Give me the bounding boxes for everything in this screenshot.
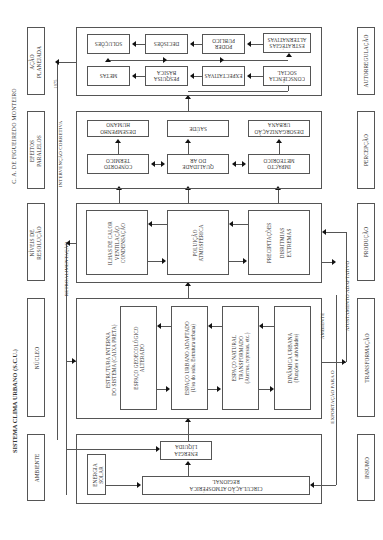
label-insumo: INSUMO xyxy=(357,434,375,501)
box-pesquisa-basica: PESQUISA BÁSICA xyxy=(145,66,188,86)
box-poder-publico: PODER PÚBLICO xyxy=(202,34,245,54)
year-label: 1975 xyxy=(52,69,60,99)
arrow-right-icon xyxy=(137,482,141,488)
box-saude: SAÚDE xyxy=(167,120,229,137)
label-nucleo: NÚCLEO xyxy=(27,298,45,417)
box-energia-solar: ENERGIA SOLAR xyxy=(87,454,106,495)
retroalimentacao-label: RETROALIMENTAÇÃO xyxy=(63,224,71,314)
box-ilhas-de-calor: ILHAS DE CALOR VENTILAÇÃO CONDENSAÇÃO xyxy=(86,210,148,275)
box-impacto-meteorico: IMPACTO METEÓRICO xyxy=(248,154,310,174)
label-efeitos-paralelos: EFEITOS PARALELOS xyxy=(27,111,45,189)
label-autorregulacao: AUTORREGULAÇÃO xyxy=(357,27,375,95)
label-producao: PRODUÇÃO xyxy=(357,203,375,281)
box-precipitacoes: PRECIPITAÇÕES DISRITMIAS EXTREMAS xyxy=(248,210,310,275)
box-energia-liquida: ENERGIA LÍQUIDA xyxy=(160,441,212,460)
box-estrategias-alternativas: ESTRATÉGIAS ALTERNATIVAS xyxy=(263,33,311,53)
box-consciencia-social: CONSCIÊNCIA SOCIAL xyxy=(263,66,311,86)
box-decisoes: DECISÕES xyxy=(145,34,188,54)
box-conforto-termico: CONFORTO TÉRMICO xyxy=(87,154,149,174)
label-acao-planejada: AÇÃO PLANEJADA xyxy=(27,27,45,95)
ambiente-label: AMBIENTE xyxy=(319,308,327,344)
box-espaco-geoecologico: ESPAÇO GEOECOLÓGICO ALTERADO xyxy=(120,306,157,410)
box-desempenho-humano: DESEMPENHO HUMANO xyxy=(87,120,149,137)
label-transformacao: TRANSFORMAÇÃO xyxy=(357,298,375,417)
arrow-left-icon xyxy=(55,59,59,65)
box-expectativas: EXPECTATIVAS xyxy=(202,66,245,86)
intervencao-corretiva-label: INTERVENÇÃO CORRETIVA xyxy=(57,105,65,203)
box-espaco-natural-transformado: ESPAÇO NATURAL TRANSFORMADO (Aterros, re… xyxy=(222,306,259,410)
label-niveis-resolucao: NÍVEIS DE RESOLUÇÃO xyxy=(27,203,45,281)
box-qualidade-do-ar: QUALIDADE DO AR xyxy=(167,154,229,174)
box-poluicao-atmosferica: POLUIÇÃO ATMOSFÉRICA xyxy=(167,210,229,275)
box-metas: METAS xyxy=(87,66,130,86)
diagram-title: SISTEMA CLIMA URBANO (S.C.U.) xyxy=(9,316,21,486)
author-credit: C. A. DE FIGUEIREDO MONTEIRO xyxy=(9,51,21,221)
arrow-up-icon xyxy=(185,461,191,465)
ajustamento-label: AJUSTAMENTO ADAPTATIVO xyxy=(344,251,352,341)
box-circulacao-atmosferica: CIRCULAÇÃO ATMOSFÉRICA REGIONAL xyxy=(142,476,310,495)
box-solucoes: SOLUÇÕES xyxy=(87,34,130,54)
box-espaco-urbano-adaptado: ESPAÇO URBANO ADAPTADO (Uso do solo, Est… xyxy=(171,306,208,410)
text-estrutura-interna: ESTRUTURA INTERNA DO SISTEMA (CAIXA PRET… xyxy=(101,300,121,420)
exportacao-label: EXPORTAÇÃO PARA O xyxy=(329,352,337,442)
box-desorganizacao-urbana: DESORGANIZAÇÃO URBANA xyxy=(248,120,310,137)
box-dinamica-urbana: DINÂMICA URBANA (Funções e atividades) xyxy=(274,306,311,410)
label-ambiente: AMBIENTE xyxy=(27,434,45,501)
label-percepcao: PERCEPÇÃO xyxy=(357,111,375,189)
